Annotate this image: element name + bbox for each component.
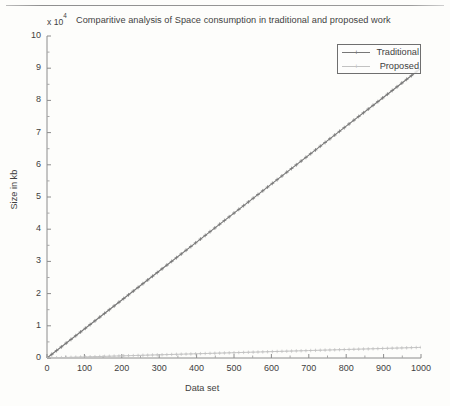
x-tick-label: 300	[142, 364, 176, 373]
plus-marker-icon: +	[354, 49, 359, 56]
legend-label-traditional: Traditional	[376, 47, 419, 57]
y-axis-multiplier-text: x 10	[47, 17, 63, 27]
y-tick-label: 5	[19, 192, 41, 201]
legend-item-traditional[interactable]: + Traditional	[338, 45, 422, 60]
x-tick-label: 900	[367, 364, 401, 373]
x-tick-label: 400	[180, 364, 214, 373]
plus-marker-icon: +	[354, 63, 359, 70]
y-tick-label: 6	[19, 160, 41, 169]
scanned-page: x 104 Comparitive analysis of Space cons…	[0, 0, 450, 406]
y-axis-ticks	[47, 36, 51, 358]
chart-figure: x 104 Comparitive analysis of Space cons…	[0, 0, 450, 406]
x-tick-label: 200	[105, 364, 139, 373]
x-tick-label: 100	[67, 364, 101, 373]
y-tick-label: 7	[19, 128, 41, 137]
x-tick-label: 600	[254, 364, 288, 373]
chart-title: Comparitive analysis of Space consumptio…	[76, 16, 391, 25]
x-tick-label: 500	[217, 364, 251, 373]
legend-swatch-traditional: +	[342, 52, 370, 53]
legend-swatch-proposed: +	[342, 66, 370, 67]
y-axis-multiplier-exponent: 4	[63, 12, 67, 19]
y-tick-label: 9	[19, 63, 41, 72]
x-axis-label: Data set	[185, 384, 219, 393]
chart-series-group	[45, 66, 423, 360]
chart-axes	[47, 36, 421, 358]
y-tick-label: 0	[19, 353, 41, 362]
y-tick-label: 1	[19, 321, 41, 330]
y-tick-label: 2	[19, 289, 41, 298]
y-tick-label: 4	[19, 224, 41, 233]
y-tick-label: 8	[19, 95, 41, 104]
x-tick-label: 700	[292, 364, 326, 373]
legend-label-proposed: Proposed	[380, 61, 419, 71]
x-tick-label: 0	[30, 364, 64, 373]
x-tick-label: 1000	[404, 364, 438, 373]
y-axis-multiplier: x 104	[47, 16, 67, 26]
x-tick-label: 800	[329, 364, 363, 373]
y-tick-label: 10	[19, 31, 41, 40]
y-tick-label: 3	[19, 256, 41, 265]
legend-item-proposed[interactable]: + Proposed	[338, 59, 422, 74]
chart-legend[interactable]: + Traditional + Proposed	[337, 44, 421, 74]
